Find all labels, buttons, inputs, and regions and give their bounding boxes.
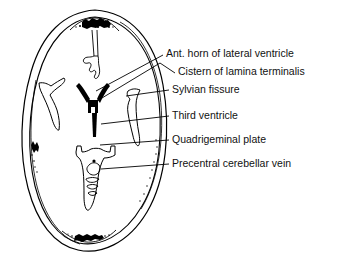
anatomy-svg: Ant. horn of lateral ventricle Cistern o… [0,0,345,263]
leader-ant-horn-of-lateral-ventricle [96,55,163,91]
third-ventricle-slit [92,113,97,137]
label-cistern-of-lamina-terminalis: Cistern of lamina terminalis [178,65,305,77]
label-texts: Ant. horn of lateral ventricle Cistern o… [166,47,305,169]
label-quadrigeminal-plate: Quadrigeminal plate [172,133,266,145]
interhemispheric-fissure [83,30,99,78]
skull-diploe-line [31,22,162,244]
label-ant-horn-of-lateral-ventricle: Ant. horn of lateral ventricle [166,47,294,59]
leader-cistern-of-lamina-terminalis [97,63,175,101]
left-sylvian-fissure [39,78,65,130]
leader-precentral-cerebellar-vein [101,164,169,169]
leader-third-ventricle [101,116,169,124]
leader-sylvian-fissure [126,90,169,96]
right-sylvian-fissure [127,89,140,146]
label-sylvian-fissure: Sylvian fissure [172,83,240,95]
anatomy-figure: Ant. horn of lateral ventricle Cistern o… [0,0,345,263]
label-precentral-cerebellar-vein: Precentral cerebellar vein [172,157,291,169]
precentral-cerebellar-vein-dot [92,159,95,162]
label-third-ventricle: Third ventricle [172,109,238,121]
